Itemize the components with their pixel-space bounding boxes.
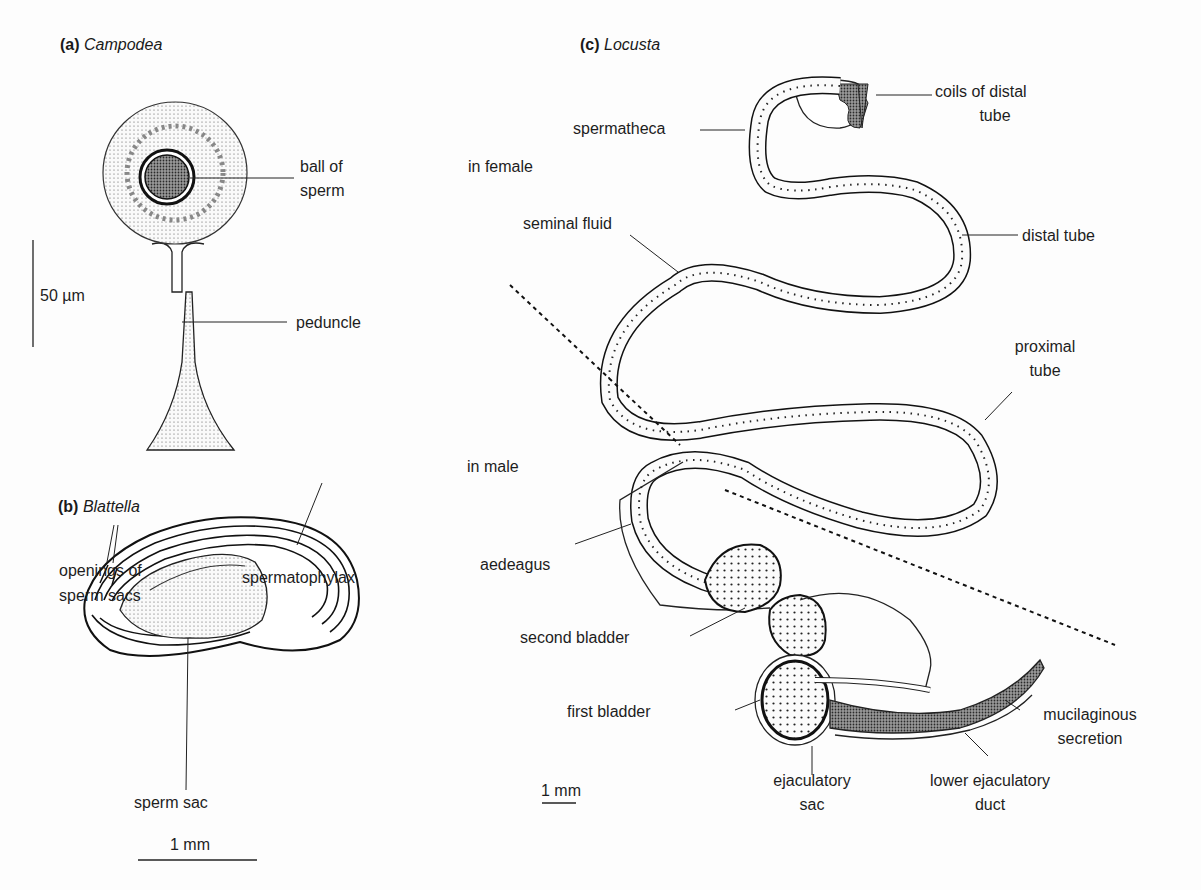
label-second-bladder: second bladder — [520, 628, 629, 647]
label-sperm-sac: sperm sac — [134, 793, 208, 812]
panel-c-genus: Locusta — [604, 36, 660, 53]
region-in-female: in female — [468, 157, 533, 176]
panel-a-letter: (a) — [60, 36, 80, 53]
label-seminal-fluid: seminal fluid — [523, 214, 612, 233]
label-ball-of-sperm-line2: sperm — [300, 181, 344, 200]
panel-b-letter: (b) — [58, 498, 78, 515]
campodea-spermatophore — [33, 102, 294, 450]
label-openings-line1: openings of — [59, 561, 142, 580]
label-coils-line1: coils of distal — [935, 82, 1027, 101]
scale-bar-c-label: 1 mm — [541, 781, 581, 800]
label-distal-tube: distal tube — [1022, 226, 1095, 245]
panel-a-genus: Campodea — [84, 36, 162, 53]
label-proximal-line2: tube — [1005, 361, 1085, 380]
label-ball-of-sperm-line1: ball of — [300, 157, 343, 176]
locusta-spermatophore — [510, 80, 1115, 803]
label-mucilaginous-line2: secretion — [1030, 729, 1150, 748]
label-mucilaginous-line1: mucilaginous — [1030, 705, 1150, 724]
label-proximal-line1: proximal — [1005, 337, 1085, 356]
panel-b-title: (b) Blattella — [58, 498, 140, 516]
panel-b-genus: Blattella — [83, 498, 140, 515]
label-lower-duct-line1: lower ejaculatory — [920, 771, 1060, 790]
label-coils-line2: tube — [935, 106, 1055, 125]
label-spermatheca: spermatheca — [573, 119, 666, 138]
panel-c-letter: (c) — [580, 36, 600, 53]
panel-c-title: (c) Locusta — [580, 36, 660, 54]
label-lower-duct-line2: duct — [920, 795, 1060, 814]
scale-bar-b-label: 1 mm — [170, 835, 210, 854]
panel-a-title: (a) Campodea — [60, 36, 162, 54]
blattella-spermatophore — [84, 483, 359, 860]
label-peduncle: peduncle — [296, 313, 361, 332]
spermatophore-figure: (a) Campodea ball of sperm peduncle 50 µ… — [0, 0, 1201, 890]
scale-bar-a-label: 50 µm — [40, 286, 85, 305]
region-in-male: in male — [467, 457, 519, 476]
label-spermatophylax: spermatophylax — [242, 568, 355, 587]
label-ejaculatory-sac-line2: sac — [757, 795, 867, 814]
label-first-bladder: first bladder — [567, 702, 651, 721]
label-aedeagus: aedeagus — [480, 555, 550, 574]
label-ejaculatory-sac-line1: ejaculatory — [757, 771, 867, 790]
label-openings-line2: sperm sacs — [59, 586, 141, 605]
